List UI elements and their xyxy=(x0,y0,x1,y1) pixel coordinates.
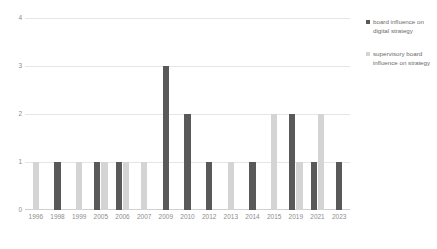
bar xyxy=(123,162,129,210)
bar-group xyxy=(25,18,47,210)
x-axis-tick-label: 2005 xyxy=(94,214,108,221)
legend-entry[interactable]: board influence on digital strategy xyxy=(366,18,436,36)
bar xyxy=(54,162,60,210)
bar-group xyxy=(220,18,242,210)
legend-swatch-icon xyxy=(366,52,370,56)
bar-group xyxy=(90,18,112,210)
bar xyxy=(116,162,122,210)
y-axis-tick-label: 0 xyxy=(18,207,22,214)
bar-group xyxy=(328,18,350,210)
bar-group xyxy=(155,18,177,210)
x-axis-tick-label: 2009 xyxy=(159,214,173,221)
bar xyxy=(228,162,234,210)
legend-label: board influence on digital strategy xyxy=(373,18,436,36)
legend-swatch-icon xyxy=(366,20,370,24)
bar xyxy=(289,114,295,210)
bar-group xyxy=(198,18,220,210)
y-axis: 01234 xyxy=(6,18,22,210)
bars-layer xyxy=(25,18,350,210)
x-axis-tick-label: 2015 xyxy=(267,214,281,221)
bar xyxy=(336,162,342,210)
legend-label: supervisory board influence on strategy xyxy=(373,50,436,68)
bar-group xyxy=(133,18,155,210)
y-axis-tick-label: 2 xyxy=(18,111,22,118)
bar xyxy=(318,114,324,210)
bar xyxy=(296,162,302,210)
bar xyxy=(141,162,147,210)
bar-group xyxy=(68,18,90,210)
x-axis-tick-label: 2010 xyxy=(180,214,194,221)
bar-group xyxy=(47,18,69,210)
bar-group xyxy=(263,18,285,210)
x-axis-tick-label: 2023 xyxy=(332,214,346,221)
plot-wrapper: 01234 1996199819992005200620072009201020… xyxy=(0,0,360,249)
legend-entry[interactable]: supervisory board influence on strategy xyxy=(366,50,436,68)
bar xyxy=(271,114,277,210)
x-axis-tick-label: 1996 xyxy=(29,214,43,221)
y-axis-tick-label: 1 xyxy=(18,159,22,166)
bar xyxy=(184,114,190,210)
bar-group xyxy=(307,18,329,210)
bar xyxy=(33,162,39,210)
x-axis-tick-label: 2012 xyxy=(202,214,216,221)
x-axis-tick-label: 2021 xyxy=(310,214,324,221)
y-axis-tick-label: 3 xyxy=(18,63,22,70)
x-axis-tick-label: 1998 xyxy=(50,214,64,221)
bar-group xyxy=(112,18,134,210)
bar-group xyxy=(285,18,307,210)
x-axis-tick-label: 2014 xyxy=(245,214,259,221)
x-axis-tick-label: 1999 xyxy=(72,214,86,221)
y-axis-tick-label: 4 xyxy=(18,15,22,22)
x-axis-tick-label: 2006 xyxy=(115,214,129,221)
x-axis: 1996199819992005200620072009201020122013… xyxy=(25,214,350,228)
bar xyxy=(206,162,212,210)
bar-group xyxy=(242,18,264,210)
bar xyxy=(311,162,317,210)
bar xyxy=(249,162,255,210)
bar xyxy=(94,162,100,210)
bar-chart: 01234 1996199819992005200620072009201020… xyxy=(0,0,437,249)
bar xyxy=(101,162,107,210)
bar xyxy=(163,66,169,210)
chart-legend: board influence on digital strategysuper… xyxy=(366,18,436,82)
plot-area xyxy=(25,18,350,210)
x-axis-tick-label: 2013 xyxy=(224,214,238,221)
bar xyxy=(76,162,82,210)
bar-group xyxy=(177,18,199,210)
x-axis-tick-label: 2019 xyxy=(289,214,303,221)
x-axis-tick-label: 2007 xyxy=(137,214,151,221)
